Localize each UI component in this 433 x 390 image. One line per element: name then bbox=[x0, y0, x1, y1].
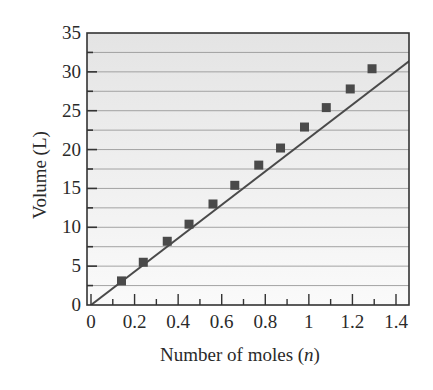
x-tick-label: 0.2 bbox=[123, 311, 147, 332]
data-point bbox=[185, 220, 194, 229]
data-point bbox=[368, 64, 377, 73]
y-tick-label: 25 bbox=[62, 100, 81, 121]
data-point bbox=[254, 161, 263, 170]
data-point bbox=[209, 199, 218, 208]
data-point bbox=[346, 84, 355, 93]
y-axis-title: Volume (L) bbox=[29, 131, 51, 219]
x-tick-label: 0.8 bbox=[253, 311, 277, 332]
x-tick-label: 0.6 bbox=[210, 311, 234, 332]
data-point bbox=[117, 276, 126, 285]
y-tick-label: 35 bbox=[62, 22, 81, 43]
y-tick-label: 10 bbox=[62, 216, 81, 237]
y-axis-tick-labels: 05101520253035 bbox=[62, 22, 81, 315]
y-tick-label: 20 bbox=[62, 139, 81, 160]
data-point bbox=[300, 123, 309, 132]
data-point bbox=[322, 103, 331, 112]
x-tick-label: 0.4 bbox=[166, 311, 190, 332]
x-tick-label: 1 bbox=[304, 311, 314, 332]
x-tick-label: 0 bbox=[86, 311, 96, 332]
y-tick-label: 15 bbox=[62, 177, 81, 198]
y-tick-label: 0 bbox=[72, 294, 82, 315]
data-point bbox=[230, 181, 239, 190]
volume-vs-moles-chart: 05101520253035 00.20.40.60.811.21.4 Numb… bbox=[0, 0, 433, 390]
data-point bbox=[139, 258, 148, 267]
x-axis-tick-labels: 00.20.40.60.811.21.4 bbox=[86, 311, 408, 332]
x-tick-label: 1.2 bbox=[341, 311, 365, 332]
x-tick-label: 1.4 bbox=[384, 311, 408, 332]
y-tick-label: 30 bbox=[62, 61, 81, 82]
data-point bbox=[163, 237, 172, 246]
x-axis-title: Number of moles (n) bbox=[160, 344, 320, 366]
data-point bbox=[276, 144, 285, 153]
y-tick-label: 5 bbox=[72, 255, 82, 276]
